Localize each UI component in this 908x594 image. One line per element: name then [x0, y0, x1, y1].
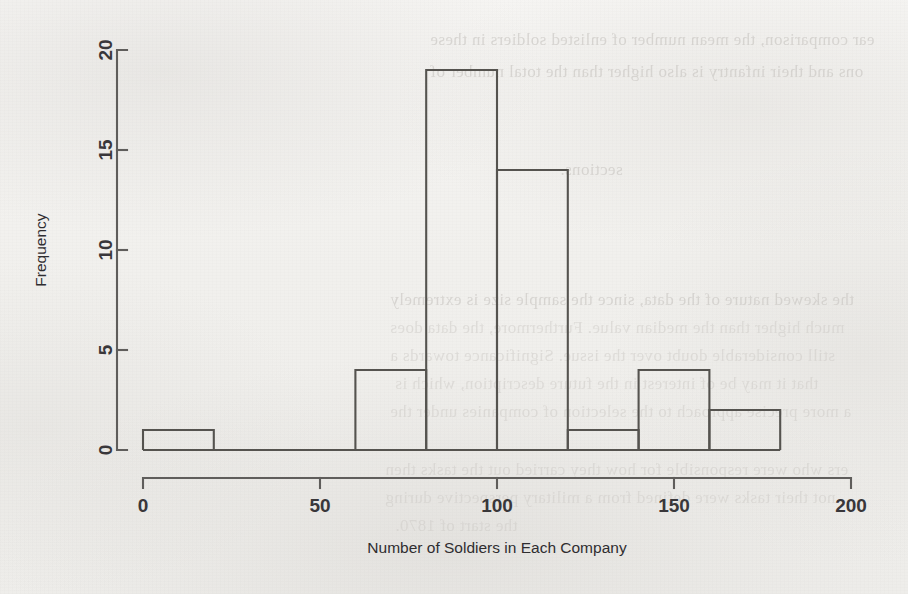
histogram-figure: 05101520Frequency050100150200Number of S… [0, 0, 908, 594]
y-axis-title: Frequency [32, 213, 49, 286]
histogram-bar [568, 430, 639, 450]
histogram-bar [143, 430, 214, 450]
histogram-bar [355, 370, 426, 450]
y-axis-tick-label: 5 [95, 344, 116, 355]
y-axis-tick-label: 0 [95, 445, 116, 456]
histogram-bar [426, 70, 497, 450]
histogram-bar [709, 410, 780, 450]
x-axis-tick-label: 0 [138, 495, 149, 516]
x-axis-tick-label: 150 [658, 495, 690, 516]
x-axis-tick-label: 100 [481, 495, 513, 516]
y-axis-tick-label: 20 [95, 39, 116, 60]
x-axis-title: Number of Soldiers in Each Company [367, 539, 627, 556]
x-axis-tick-label: 200 [835, 495, 867, 516]
histogram-bar [497, 170, 568, 450]
x-axis-tick-label: 50 [309, 495, 330, 516]
y-axis-tick-label: 10 [95, 239, 116, 260]
histogram-bar [639, 370, 710, 450]
histogram-svg: 05101520Frequency050100150200Number of S… [0, 0, 908, 594]
y-axis-tick-label: 15 [95, 139, 116, 161]
